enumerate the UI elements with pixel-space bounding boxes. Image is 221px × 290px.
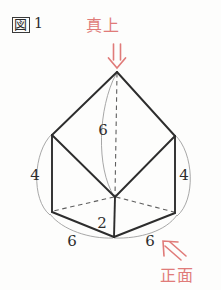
geometry-drawing: 6 4 4 2 6 6: [0, 0, 221, 290]
dimension-label-bottom-right: 6: [145, 232, 155, 250]
measure-arc-group: [37, 74, 191, 238]
figure-canvas: 図1 真上 正面: [0, 0, 221, 290]
figure-caption: 図1: [12, 14, 44, 33]
dimension-label-bottom-left: 6: [67, 232, 77, 250]
figure-label-number: 1: [34, 15, 44, 31]
edge-upperright-center: [115, 136, 175, 197]
dimension-label-right-edge: 4: [179, 166, 189, 184]
edge-center-frontbottom: [114, 197, 115, 237]
solid-edges-group: [52, 72, 175, 237]
dimension-label-height-center: 6: [98, 121, 108, 139]
figure-label-kanji: 図: [12, 17, 30, 33]
dimension-label-center-short: 2: [97, 214, 107, 232]
top-view-annotation-label: 真上: [86, 12, 120, 36]
dimension-label-left-edge: 4: [30, 166, 40, 184]
hidden-edge-center-lowerleft: [53, 197, 114, 211]
hidden-edge-apex-center: [115, 73, 117, 196]
hidden-edges-group: [53, 73, 174, 212]
front-view-annotation-label: 正面: [160, 262, 194, 286]
hidden-edge-center-lowerright: [116, 197, 174, 212]
double-up-left-arrow-icon: [163, 241, 186, 260]
dimension-labels-group: 6 4 4 2 6 6: [30, 121, 189, 250]
double-down-arrow-icon: [109, 44, 126, 68]
edge-apex-upperright: [117, 72, 175, 136]
edge-upperleft-center: [52, 135, 115, 197]
